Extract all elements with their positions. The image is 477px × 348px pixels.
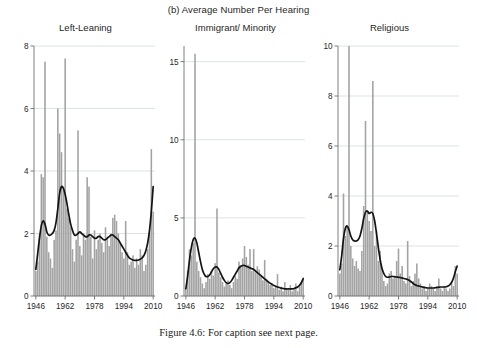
bar [378,261,380,296]
bar [140,249,142,296]
bar [46,237,48,296]
bar [74,262,76,296]
x-tick-label: 1946 [27,302,46,311]
bar [269,285,271,296]
x-tick-label: 1962 [56,302,75,311]
bar [374,246,376,296]
bar [85,240,87,296]
bar [66,209,68,297]
bar [55,230,57,296]
bar [341,264,343,297]
bar [383,281,385,296]
bar [429,284,431,297]
bar [339,274,341,297]
y-tick-label: 5 [174,214,179,223]
bar [244,246,246,296]
bar [255,273,257,296]
x-tick-label: 1994 [265,302,284,311]
chart-0: 0246819461962197819942010 [8,36,163,322]
panel-religious: Religious 024681019461962197819942010 [312,22,467,322]
bar [442,291,444,296]
bar [449,289,451,297]
bar [108,246,110,296]
bar [211,271,213,296]
bar [394,276,396,296]
bar [37,262,39,296]
bar [416,264,418,297]
bar [127,252,129,296]
x-tick-label: 1962 [206,302,225,311]
bar [132,255,134,296]
bar [72,249,74,296]
bar [203,288,205,296]
bar [99,234,101,297]
y-tick-label: 4 [24,167,29,176]
bar [357,269,359,297]
bar [288,290,290,296]
bar [233,282,235,296]
y-tick-label: 6 [24,105,29,114]
bar [107,237,109,296]
bar [253,249,255,296]
bar [456,274,458,297]
x-tick-label: 2010 [448,302,467,311]
bar [262,280,264,296]
x-tick-label: 1946 [177,302,196,311]
bar [433,289,435,297]
bar [352,259,354,297]
bar [222,282,224,296]
bar [112,218,114,296]
bar [191,255,193,296]
bar [268,282,270,296]
bar [451,284,453,297]
bar [118,234,120,297]
bar-series [339,46,458,296]
bar [257,266,259,296]
bar [121,252,123,296]
bar [282,291,284,296]
bar [129,265,131,296]
bar [345,236,347,296]
bar [123,259,125,297]
bar [398,249,400,297]
bar [236,279,238,296]
bar [350,246,352,296]
bar [427,289,429,297]
bar [75,240,77,296]
bar [202,284,204,297]
bar [81,255,83,296]
bar [42,177,44,296]
x-tick-label: 1978 [235,302,254,311]
bar [141,255,143,296]
bar [192,243,194,296]
bar [143,271,145,296]
bar [147,249,149,296]
bar [50,259,52,297]
figure-container: (b) Average Number Per Hearing Left-Lean… [0,0,477,348]
bar [409,276,411,296]
bar [235,276,237,296]
bar [403,281,405,296]
bar [295,284,297,297]
bar [114,215,116,296]
bar [152,212,154,296]
bar [277,274,279,296]
bar [196,262,198,296]
bar [260,276,262,296]
bar [216,209,218,297]
x-tick-label: 1946 [331,302,350,311]
bar [242,259,244,297]
panel-title-immigrant-minority: Immigrant/ Minority [158,22,313,33]
panel-left-leaning: Left-Leaning 0246819461962197819942010 [8,22,163,322]
bar [231,288,233,296]
y-tick-label: 6 [328,142,333,151]
bar [218,273,220,296]
bar [299,287,301,296]
y-tick-label: 0 [24,292,29,301]
y-tick-label: 10 [323,42,333,51]
bar [407,241,409,296]
bar [445,289,447,297]
bar [401,266,403,296]
bar [103,252,105,296]
figure-supertitle: (b) Average Number Per Hearing [0,4,477,15]
